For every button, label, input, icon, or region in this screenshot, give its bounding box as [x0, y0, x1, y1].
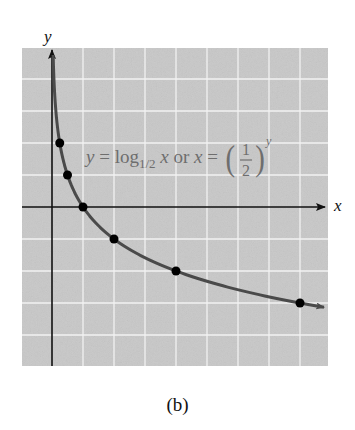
data-point [63, 171, 72, 180]
data-point [79, 203, 88, 212]
svg-text:): ) [255, 138, 265, 178]
svg-text:2: 2 [242, 162, 250, 179]
svg-text:y: y [265, 134, 272, 148]
svg-text:1: 1 [242, 141, 250, 158]
svg-text:(: ( [226, 138, 236, 178]
data-point [55, 139, 64, 148]
data-point [296, 299, 305, 308]
y-axis-label: y [42, 27, 52, 46]
log-graph: x y y = log1/2 x or x = ( 1 2 ) y [0, 0, 355, 430]
figure-caption: (b) [0, 394, 355, 416]
data-point [110, 235, 119, 244]
x-axis-label: x [333, 196, 342, 215]
data-point [172, 267, 181, 276]
